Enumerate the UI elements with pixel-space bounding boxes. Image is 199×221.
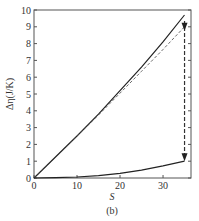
series-lower-solid (34, 161, 185, 178)
y-tick-label: 10 (21, 5, 31, 16)
series-group (34, 15, 185, 178)
arrowhead-icon (182, 23, 188, 31)
y-axis-label: Δη(J/K) (4, 78, 16, 110)
y-axis-ticks: 012345678910 (21, 5, 191, 184)
y-tick-label: 3 (26, 122, 31, 133)
y-tick-label: 8 (26, 38, 31, 49)
x-tick-label: 20 (115, 180, 125, 191)
x-tick-label: 30 (158, 180, 168, 191)
y-tick-label: 1 (26, 156, 31, 167)
series-upper-solid (34, 15, 185, 178)
y-tick-label: 6 (26, 72, 31, 83)
y-tick-label: 2 (26, 139, 31, 150)
y-tick-label: 4 (26, 105, 31, 116)
caption: (b) (106, 205, 118, 217)
plot-frame (34, 10, 191, 178)
y-tick-label: 7 (26, 55, 31, 66)
y-tick-label: 5 (26, 89, 31, 100)
y-tick-label: 0 (26, 173, 31, 184)
chart: 012345678910 0102030 S (b) Δη(J/K) (0, 0, 199, 221)
arrowhead-icon (182, 153, 188, 161)
x-tick-label: 0 (32, 180, 37, 191)
x-axis-label: S (110, 191, 115, 202)
y-tick-label: 9 (26, 21, 31, 32)
annotations-group (182, 21, 188, 161)
x-tick-label: 10 (72, 180, 82, 191)
